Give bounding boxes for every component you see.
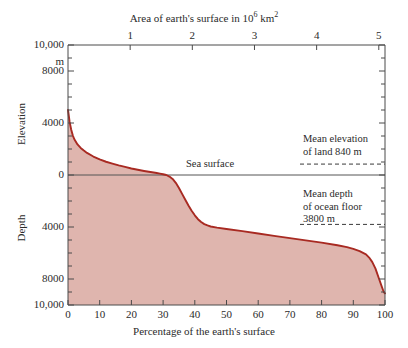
y-tick-label: 0 bbox=[14, 168, 64, 180]
y-tick-label: 4000 bbox=[14, 116, 64, 128]
x-tick-label: 100 bbox=[369, 308, 401, 320]
top-x-tick-label: 5 bbox=[363, 29, 395, 41]
y-tick-label: 10,000 bbox=[14, 298, 64, 310]
y-tick-label: 4000 bbox=[14, 220, 64, 232]
x-tick-label: 30 bbox=[147, 308, 179, 320]
top-x-tick-label: 3 bbox=[238, 29, 270, 41]
top-x-tick-label: 4 bbox=[301, 29, 333, 41]
y-tick-label: 8000 bbox=[14, 64, 64, 76]
y-tick-label: 8000 bbox=[14, 272, 64, 284]
x-tick-label: 10 bbox=[84, 308, 116, 320]
top-x-tick-label: 1 bbox=[114, 29, 146, 41]
hypsographic-area-fill bbox=[68, 110, 385, 305]
x-tick-label: 40 bbox=[179, 308, 211, 320]
y-tick-label: 10,000 bbox=[14, 38, 64, 50]
x-tick-label: 50 bbox=[211, 308, 243, 320]
x-tick-label: 70 bbox=[274, 308, 306, 320]
top-x-tick-label: 2 bbox=[176, 29, 208, 41]
x-tick-label: 80 bbox=[306, 308, 338, 320]
hypsographic-curve-figure: Area of earth's surface in 106 km2 Perce… bbox=[0, 0, 408, 348]
x-tick-label: 60 bbox=[242, 308, 274, 320]
x-tick-label: 90 bbox=[337, 308, 369, 320]
x-tick-label: 20 bbox=[115, 308, 147, 320]
